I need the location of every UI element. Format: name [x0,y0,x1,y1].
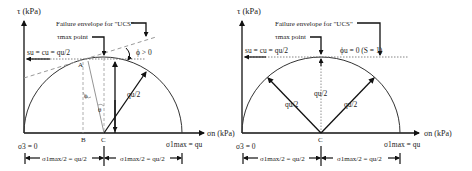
radius-left-label: qu/2 [285,100,299,109]
sigma3-label: σ3 = 0 [236,142,256,151]
tau-max-label: τmax point [275,33,306,41]
angle-phi-label: ϕ [84,92,88,100]
sigma1-label: σ1max = qu [384,140,420,149]
mohr-circle [24,57,182,133]
failure-envelope-label: Failure envelope for "UCS" [275,20,353,28]
dim-right-label: σ1max/2 = qu/2 [120,155,165,163]
tau-axis-label: τ (kPa) [17,6,41,16]
dim-left-label: σ1max/2 = qu/2 [42,155,87,163]
failure-envelope-label: Failure envelope for "UCS" [56,20,134,28]
tau-max-label: τmax point [57,33,88,41]
radius-label: qu/2 [127,90,141,99]
sigma1-label: σ1max = qu [166,140,202,149]
mohr-circle-diagrams: τ (kPa) σn (kPa) su = cu = qu/2 Failure … [0,0,472,171]
dim-left-label: σ1max/2 = qu/2 [260,155,305,163]
su-label: su = cu = qu/2 [245,46,288,55]
radius-right-label: qu/2 [344,100,358,109]
radius-arrow [104,72,146,133]
angle-theta-label: θ [98,106,102,114]
tau-max-pointer [92,37,104,55]
point-c-label: C [101,136,106,144]
sigma3-label: σ3 = 0 [18,142,38,151]
tau-max-pointer [310,37,321,54]
sigma-axis-label: σn (kPa) [207,129,235,138]
point-b-label: B [81,136,86,144]
tau-axis-label: τ (kPa) [237,6,261,16]
phi-label: ϕ > 0 [136,48,152,57]
point-c-label: C [318,136,323,144]
su-label: su = cu = qu/2 [27,48,70,57]
point-a-label: A [78,61,83,69]
phi-angle-arc [126,48,130,60]
dim-right-label: σ1max/2 = qu/2 [337,155,382,163]
left-diagram: τ (kPa) σn (kPa) su = cu = qu/2 Failure … [17,6,235,166]
right-diagram: τ (kPa) σn (kPa) su = cu = qu/2 Failure … [236,6,452,166]
phi-label: ϕu = 0 (S = 1) [340,46,383,55]
sigma-axis-label: σn (kPa) [424,129,452,138]
radius-center-label: qu/2 [314,89,328,98]
